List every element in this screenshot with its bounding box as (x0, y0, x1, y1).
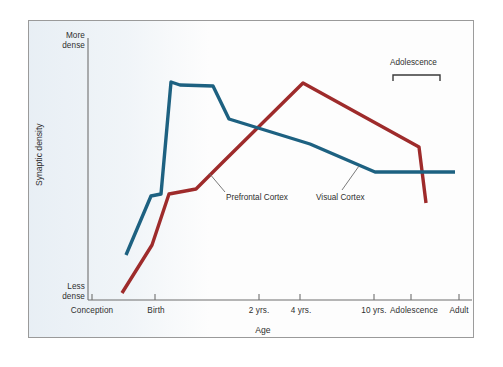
adolescence-bracket (393, 75, 440, 81)
figure-container: More dense Less dense Conception Birth 2… (0, 0, 503, 367)
annotation-adolescence: Adolescence (390, 58, 437, 67)
leader-line-visual (342, 166, 359, 190)
x-tick-label-2yrs: 2 yrs. (249, 306, 270, 315)
y-axis-max-label-line1: More (66, 31, 85, 40)
x-tick-label-4yrs: 4 yrs. (291, 306, 312, 315)
x-tick-label-adolescence: Adolescence (390, 306, 438, 315)
series-label-visual-cortex: Visual Cortex (316, 193, 365, 202)
x-tick-label-birth: Birth (147, 306, 164, 315)
y-axis-max-label-line2: dense (62, 41, 85, 50)
x-tick-label-conception: Conception (71, 306, 113, 315)
series-label-prefrontal-cortex: Prefrontal Cortex (226, 193, 288, 202)
series-line-visual-cortex (126, 82, 455, 255)
x-axis-ticks (92, 294, 459, 300)
leader-line-prefrontal (209, 173, 225, 192)
y-axis-title: Synaptic density (34, 123, 44, 186)
y-axis-min-label-line1: Less (67, 282, 85, 291)
x-tick-label-10yrs: 10 yrs. (361, 306, 386, 315)
y-axis-min-label-line2: dense (62, 292, 85, 301)
x-axis-title: Age (255, 325, 270, 335)
x-tick-label-adult: Adult (449, 306, 468, 315)
